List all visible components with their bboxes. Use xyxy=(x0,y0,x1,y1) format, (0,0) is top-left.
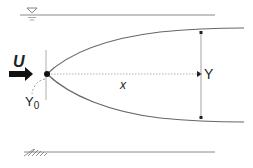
plume-diagram: U Y0 x Y xyxy=(0,0,253,168)
initial-width-label-main: Y xyxy=(25,94,34,109)
plume-upper-boundary xyxy=(47,28,244,74)
water-surface xyxy=(20,8,215,20)
diagram-graphic xyxy=(0,0,253,168)
initial-width-indicator xyxy=(32,79,45,94)
plume-lower-boundary xyxy=(47,74,244,122)
distance-label: x xyxy=(120,79,126,91)
water-level-icon xyxy=(27,8,37,20)
initial-width-label: Y0 xyxy=(25,95,39,111)
channel-bed xyxy=(24,149,215,156)
centerline-arrow xyxy=(48,71,202,77)
velocity-label: U xyxy=(13,54,25,70)
width-label: Y xyxy=(204,67,213,81)
source-point xyxy=(44,71,50,77)
initial-width-label-sub: 0 xyxy=(34,100,40,111)
